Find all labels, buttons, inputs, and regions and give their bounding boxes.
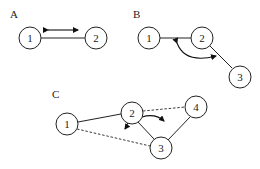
diagram-svg: A 1 2 B 1 2 3 C [0,0,260,169]
node-1-label: 1 [64,118,70,130]
network-diagram: A 1 2 B 1 2 3 C [0,0,260,169]
curved-arrow-right-icon [142,116,164,121]
node-1: 1 [19,27,41,49]
panel-c: C 1 2 3 4 [52,88,207,159]
edge-3-4 [168,117,190,140]
node-2: 2 [121,102,143,124]
node-2-label: 2 [93,32,99,44]
edge-1-2 [78,114,121,122]
edge-2-3 [138,122,154,139]
node-4-label: 4 [193,101,199,113]
node-1-label: 1 [146,32,152,44]
node-1: 1 [56,113,78,135]
panel-b-label: B [133,8,140,20]
dashed-edge-1-3 [77,129,150,146]
node-3-label: 3 [237,71,243,83]
node-3-label: 3 [158,142,164,154]
node-1: 1 [138,27,160,49]
panel-b: B 1 2 3 [133,8,251,88]
node-2: 2 [191,27,213,49]
node-2-label: 2 [199,32,205,44]
node-2-label: 2 [129,107,135,119]
node-3: 3 [150,137,172,159]
node-2: 2 [85,27,107,49]
panel-a: A 1 2 [10,8,107,49]
node-4: 4 [185,96,207,118]
panel-a-label: A [10,8,18,20]
dashed-edge-2-4 [143,107,185,111]
node-1-label: 1 [27,32,33,44]
panel-c-label: C [52,88,59,100]
node-3: 3 [229,66,251,88]
